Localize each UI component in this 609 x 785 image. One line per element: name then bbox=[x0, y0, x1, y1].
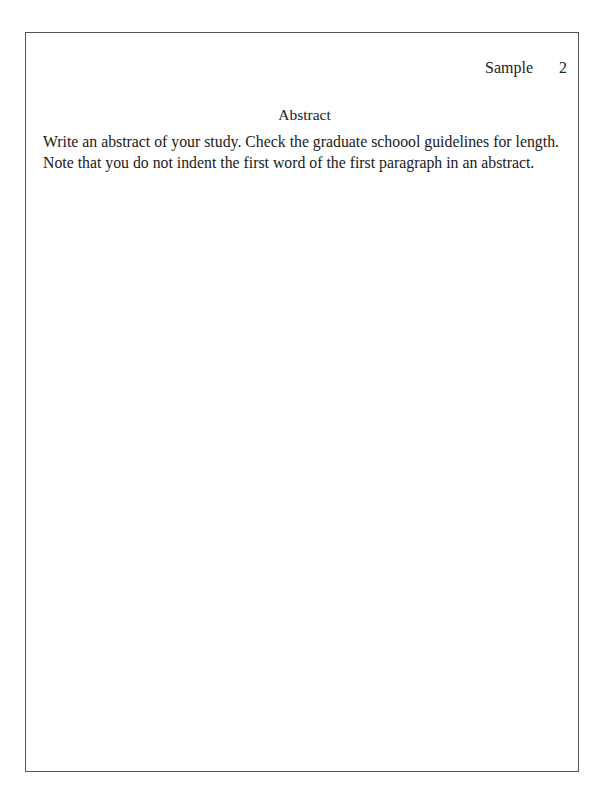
abstract-body: Write an abstract of your study. Check t… bbox=[43, 131, 583, 173]
running-head-title: Sample bbox=[485, 59, 533, 76]
section-title: Abstract bbox=[0, 106, 609, 124]
page-number: 2 bbox=[559, 59, 567, 76]
abstract-line-1: Write an abstract of your study. Check t… bbox=[43, 131, 583, 152]
abstract-line-2: Note that you do not indent the first wo… bbox=[43, 152, 583, 173]
running-head: Sample2 bbox=[485, 59, 567, 77]
